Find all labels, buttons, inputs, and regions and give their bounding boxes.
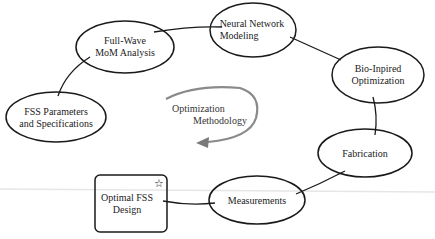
scan-artifact <box>0 189 435 192</box>
arrowhead-icon <box>196 137 209 148</box>
node-neural-network-label: Neural Network Modeling <box>220 18 285 42</box>
node-fss-params-label: FSS Parameters and Specifications <box>19 106 93 130</box>
label-line: Design <box>101 204 153 216</box>
star-icon: ☆ <box>154 178 164 189</box>
node-bio-inspired-label: Bio-Inpired Optimization <box>352 63 405 87</box>
label-line: MoM Analysis <box>95 47 155 59</box>
label-line: Modeling <box>220 30 285 42</box>
center-label-line2: Methodology <box>193 115 247 127</box>
node-optimal-design-label: Optimal FSS Design <box>101 192 153 216</box>
label-line: FSS Parameters <box>19 106 93 118</box>
label-line: Measurements <box>228 195 286 207</box>
label-line: Optimal FSS <box>101 192 153 204</box>
label-line: and Specifications <box>19 118 93 130</box>
optimization-flow-diagram: Full-Wave MoM Analysis Neural Network Mo… <box>0 0 435 239</box>
node-measurements-label: Measurements <box>228 195 286 207</box>
label-line: Full-Wave <box>95 35 155 47</box>
node-fabrication-label: Fabrication <box>342 148 388 160</box>
edge-neural-to-bio <box>290 37 341 60</box>
label-line: Neural Network <box>220 18 285 30</box>
label-line: Fabrication <box>342 148 388 160</box>
edge-measurements-to-design <box>163 201 215 204</box>
label-line: Optimization <box>352 75 405 87</box>
label-line: Bio-Inpired <box>352 63 405 75</box>
node-full-wave-label: Full-Wave MoM Analysis <box>95 35 155 59</box>
center-label-line1: Optimization <box>172 103 225 115</box>
